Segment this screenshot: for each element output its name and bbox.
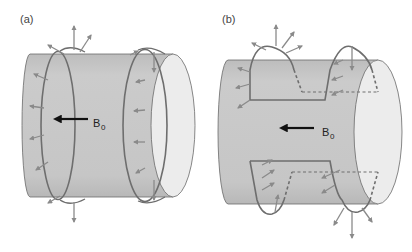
b0-subscript-a: 0 xyxy=(101,123,106,132)
cylinder-end-a xyxy=(151,54,195,197)
cylinder-end-b xyxy=(354,60,402,204)
b0-label-b: B xyxy=(322,126,329,138)
panel-b-label: (b) xyxy=(222,13,235,25)
panel-a-label: (a) xyxy=(20,13,33,25)
coil-diagram: (a) xyxy=(0,0,412,252)
b0-label-a: B xyxy=(93,117,100,129)
panel-a: (a) xyxy=(20,13,195,222)
panel-b: (b) xyxy=(218,13,402,238)
b0-subscript-b: 0 xyxy=(330,132,335,141)
